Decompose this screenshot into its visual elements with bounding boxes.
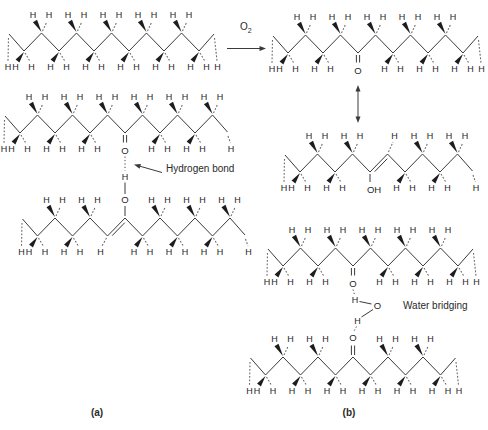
enol-a-bottom-wedge-bond bbox=[64, 237, 72, 247]
hydrogen-atom-label: H bbox=[271, 277, 278, 287]
hydrogen-atom-label: H bbox=[329, 12, 336, 22]
hydrogen-atom-label: H bbox=[18, 247, 25, 257]
alkane-a-top-wedge-bond bbox=[138, 20, 147, 32]
hydroxyl-group-label: OH bbox=[367, 184, 381, 195]
hydrogen-atom-label: H bbox=[42, 247, 49, 257]
ketone-b-lower-hash-bond bbox=[319, 268, 324, 276]
oxygen-atom-label: O bbox=[349, 332, 356, 343]
alkane-a-top-backbone bbox=[9, 33, 214, 51]
hydrogen-atom-label: H bbox=[228, 144, 235, 154]
hydrogen-atom-label: H bbox=[359, 386, 366, 396]
hydrogen-atom-label: H bbox=[81, 10, 88, 20]
ketone-b-lower-hash-bond bbox=[372, 237, 377, 247]
hydrogen-atom-label: H bbox=[473, 183, 480, 193]
ketone-b-bottom-hash-bond bbox=[442, 377, 447, 385]
ketone-a-middle-wedge-bond bbox=[29, 102, 38, 114]
hydrogen-atom-label: H bbox=[289, 225, 296, 235]
hydrogen-atom-label: H bbox=[152, 62, 159, 72]
alkane-a-top-hash-bond bbox=[43, 22, 48, 32]
ketone-b-top-backbone bbox=[273, 35, 478, 53]
structure-diagram-svg: HHHHHHHHHHHHHHHHHHHHHHHHHHHHHHHHHHHHHHHH… bbox=[0, 0, 488, 430]
ketone-a-middle-wedge-bond bbox=[47, 134, 55, 144]
ketone-a-middle-hash-bond bbox=[109, 104, 114, 114]
hydrogen-atom-label: H bbox=[415, 12, 422, 22]
oxygen-atom-label: O bbox=[349, 278, 356, 289]
enol-b-middle-terminal-h-bond bbox=[473, 175, 476, 182]
ketone-b-lower-hash-bond bbox=[284, 268, 289, 276]
enol-b-middle-hash-bond bbox=[301, 174, 306, 182]
ketone-b-bottom-wedge-bond bbox=[309, 344, 318, 356]
hydrogen-atom-label: H bbox=[100, 10, 107, 20]
water-o-h-bond bbox=[362, 310, 374, 318]
hydrogen-atom-label: H bbox=[61, 92, 68, 102]
ketone-a-middle-hash-bond bbox=[56, 135, 61, 143]
enol-a-bottom-hash-bond bbox=[39, 238, 44, 246]
enol-a-bottom-wedge-bond bbox=[46, 205, 55, 217]
hydrogen-atom-label: H bbox=[24, 144, 31, 154]
hydrogen-atom-label: H bbox=[217, 92, 224, 102]
hydrogen-atom-label: H bbox=[98, 62, 105, 72]
hydrogen-atom-label: H bbox=[148, 144, 155, 154]
ketone-b-bottom-hash-bond bbox=[267, 377, 272, 385]
hydrogen-atom-label: H bbox=[432, 64, 439, 74]
hydrogen-atom-label: H bbox=[462, 131, 469, 141]
hydrogen-atom-label: H bbox=[77, 92, 84, 102]
hydrogen-atom-label: H bbox=[381, 64, 388, 74]
ketone-a-middle-terminal-h-bond bbox=[4, 120, 5, 143]
alkane-a-top-terminal-h-bond bbox=[215, 38, 218, 61]
enol-b-middle-hash-bond bbox=[459, 143, 464, 153]
ketone-b-bottom-wedge-bond bbox=[379, 344, 388, 356]
ketone-b-bottom-wedge-bond bbox=[432, 376, 440, 386]
enol-a-bottom-vinyl-h-bond bbox=[102, 238, 107, 246]
ketone-a-middle-hash-bond bbox=[91, 135, 96, 143]
alkane-a-top-hash-bond bbox=[95, 53, 100, 61]
hydrogen-atom-label: H bbox=[112, 92, 119, 102]
enol-a-bottom-wedge-bond bbox=[81, 205, 90, 217]
hydrogen-atom-label: H bbox=[364, 12, 371, 22]
ketone-b-top-wedge-bond bbox=[297, 22, 306, 34]
hydrogen-atom-label: H bbox=[218, 195, 225, 205]
ketone-b-bottom-wedge-bond bbox=[414, 344, 423, 356]
alkane-a-top-wedge-bond bbox=[173, 20, 182, 32]
ketone-b-top-wedge-bond bbox=[280, 54, 288, 64]
hydrogen-atom-label: H bbox=[168, 62, 175, 72]
oxygen-atom-label: O bbox=[121, 145, 128, 156]
hydrogen-atom-label: H bbox=[182, 247, 189, 257]
enol-b-middle-hash-bond bbox=[336, 174, 341, 182]
alkane-a-top-wedge-bond bbox=[156, 52, 164, 62]
hydrogen-atom-label: H bbox=[26, 247, 33, 257]
hydrogen-atom-label: H bbox=[203, 62, 210, 72]
hydrogen-atom-label: H bbox=[30, 10, 37, 20]
ketone-b-top-wedge-bond bbox=[315, 54, 323, 64]
ketone-b-bottom-terminal-h-bond bbox=[250, 362, 251, 385]
ketone-a-middle-wedge-bond bbox=[169, 102, 178, 114]
oxygen-gas-subscript: 2 bbox=[248, 27, 252, 34]
hydrogen-atom-label: H bbox=[322, 334, 329, 344]
enol-a-bottom-hash-bond bbox=[214, 238, 219, 246]
ketone-b-lower-wedge-bond bbox=[450, 267, 458, 277]
hydrogen-atom-label: H bbox=[445, 225, 452, 235]
hydrogen-atom-label: H bbox=[148, 195, 155, 205]
hydrogen-atom-label: H bbox=[82, 62, 89, 72]
enol-a-bottom-wedge-bond bbox=[221, 205, 230, 217]
hydrogen-atom-label: H bbox=[217, 247, 224, 257]
hydrogen-atom-label: H bbox=[428, 183, 435, 193]
water-hydrogen-label: H bbox=[352, 295, 359, 305]
hydrogen-atom-label: H bbox=[375, 225, 382, 235]
hydrogen-atom-label: H bbox=[446, 277, 453, 287]
keto-enol-oxidation-figure: HHHHHHHHHHHHHHHHHHHHHHHHHHHHHHHHHHHHHHHH… bbox=[0, 0, 488, 430]
hydrogen-atom-label: H bbox=[276, 64, 283, 74]
ketone-a-middle-backbone bbox=[5, 115, 228, 133]
hydrogen-atom-label: H bbox=[234, 195, 241, 205]
alkane-a-top-terminal-h-bond bbox=[8, 38, 9, 61]
hydrogen-atom-label: H bbox=[61, 247, 68, 257]
hydrogen-atom-label: H bbox=[324, 386, 331, 396]
ketone-b-top-wedge-bond bbox=[420, 54, 428, 64]
ketone-a-middle-hash-bond bbox=[196, 135, 201, 143]
hydrogen-atom-label: H bbox=[411, 334, 418, 344]
hydrogen-atom-label: H bbox=[393, 183, 400, 193]
enol-a-bottom-wedge-bond bbox=[204, 237, 212, 247]
hydrogen-atom-label: H bbox=[310, 12, 317, 22]
hydrogen-atom-label: H bbox=[306, 334, 313, 344]
hydrogen-atom-label: H bbox=[427, 277, 434, 287]
